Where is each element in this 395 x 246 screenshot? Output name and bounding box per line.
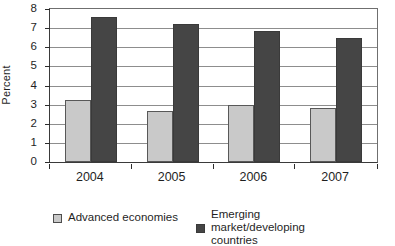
bar-chart: Percent 012345678 2004200520062007 Advan… [0, 0, 395, 246]
x-axis-label-2004: 2004 [76, 170, 104, 184]
y-axis-tick-label: 5 [31, 61, 37, 73]
y-axis-tick-label: 0 [31, 156, 37, 168]
x-axis-tick [49, 164, 50, 169]
bar [91, 17, 117, 162]
legend-label: Advanced economies [68, 211, 178, 224]
y-axis-tick-label: 4 [31, 80, 37, 92]
chart-legend: Advanced economiesEmerging market/develo… [50, 205, 390, 246]
bar [254, 31, 280, 162]
light-gray-swatch [53, 214, 62, 223]
y-axis-tick-label: 1 [31, 137, 37, 149]
legend-label: Emerging market/developing countries [211, 208, 305, 246]
bar [147, 111, 173, 162]
bar [336, 38, 362, 162]
y-axis-tick-label: 6 [31, 42, 37, 54]
dark-gray-swatch [196, 224, 205, 233]
bars-layer [50, 9, 377, 162]
bar [310, 108, 336, 162]
bar [228, 105, 254, 162]
plot-area: 012345678 [49, 8, 378, 163]
y-axis-tick: 0 [45, 162, 50, 163]
y-axis-tick-label: 3 [31, 99, 37, 111]
x-axis-tick [131, 164, 132, 169]
y-axis-tick-label: 2 [31, 118, 37, 130]
x-axis-label-2006: 2006 [239, 170, 267, 184]
bar [65, 100, 91, 162]
y-axis-tick-label: 7 [31, 22, 37, 34]
x-axis-tick [294, 164, 295, 169]
legend-entry: Emerging market/developing countries [196, 208, 305, 246]
y-axis-title: Percent [0, 55, 12, 115]
x-axis-tick [213, 164, 214, 169]
x-axis-tick [377, 164, 378, 169]
y-axis-tick-label: 8 [31, 3, 37, 15]
legend-entry: Advanced economies [53, 211, 178, 224]
bar [173, 24, 199, 162]
x-axis-label-2005: 2005 [158, 170, 186, 184]
x-axis-label-2007: 2007 [321, 170, 349, 184]
